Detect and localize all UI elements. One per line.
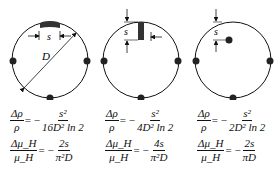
inset-contact — [226, 37, 233, 44]
mu: μ_H — [13, 151, 34, 163]
rho: ρ — [108, 121, 115, 133]
mu: μ_H — [200, 151, 221, 163]
equals-minus: = − — [38, 145, 53, 156]
label-D: D — [41, 50, 50, 62]
delta-mu: Δμ_H — [197, 138, 224, 151]
contact-left — [101, 58, 108, 65]
rhs-denominator: π²D — [55, 151, 74, 163]
sample-circle-1: s D — [10, 21, 91, 100]
delta-mu: Δμ_H — [10, 138, 37, 151]
rhs-denominator: 2D² ln 2 — [228, 121, 266, 133]
edge-contact-pad — [40, 21, 60, 28]
rhs-denominator: 16D² ln 2 — [41, 121, 85, 133]
rhs-denominator: πD — [242, 151, 257, 163]
delta-mu: Δμ_H — [105, 138, 132, 151]
equals-minus: = − — [25, 115, 40, 126]
sample-circle-3: s — [193, 9, 274, 100]
rhs-denominator: 4D² ln 2 — [136, 121, 174, 133]
equals-minus: = − — [225, 145, 240, 156]
label-s: s — [124, 26, 128, 37]
formula-mobility-2: Δμ_Hμ_H= −4sπ²D — [105, 138, 168, 163]
rhs-numerator: 4s — [153, 138, 165, 151]
label-s: s — [214, 26, 218, 37]
formula-mobility-1: Δμ_Hμ_H= −2sπ²D — [10, 138, 73, 163]
contact-left — [10, 58, 17, 65]
contact-bottom — [138, 95, 145, 101]
formula-resistivity-3: Δρρ= −s²2D² ln 2 — [197, 108, 266, 133]
rhs-numerator: 2s — [58, 138, 70, 151]
delta-rho: Δρ — [10, 108, 24, 121]
rhs-numerator: s² — [242, 108, 252, 121]
formula-mobility-3: Δμ_Hμ_H= −2sπD — [197, 138, 257, 163]
equals-minus: = − — [120, 115, 135, 126]
contact-bottom — [230, 95, 237, 101]
rho: ρ — [13, 121, 20, 133]
delta-rho: Δρ — [105, 108, 119, 121]
contact-right — [84, 58, 91, 65]
mu: μ_H — [108, 151, 129, 163]
contact-bottom — [47, 95, 54, 101]
contact-right — [175, 58, 182, 65]
contact-geometry-diagram: s D s s — [0, 0, 280, 100]
radial-contact-bar — [138, 22, 144, 40]
rhs-denominator: π²D — [150, 151, 169, 163]
delta-rho: Δρ — [197, 108, 211, 121]
rhs-numerator: s² — [150, 108, 160, 121]
formula-resistivity-1: Δρρ= −s²16D² ln 2 — [10, 108, 85, 133]
formula-resistivity-2: Δρρ= −s²4D² ln 2 — [105, 108, 174, 133]
contact-right — [267, 58, 274, 65]
equals-minus: = − — [133, 145, 148, 156]
equals-minus: = − — [212, 115, 227, 126]
rho: ρ — [200, 121, 207, 133]
sample-circle-2: s — [101, 9, 182, 100]
rhs-numerator: 2s — [243, 138, 255, 151]
rhs-numerator: s² — [58, 108, 68, 121]
contact-left — [193, 58, 200, 65]
label-s: s — [47, 31, 51, 42]
